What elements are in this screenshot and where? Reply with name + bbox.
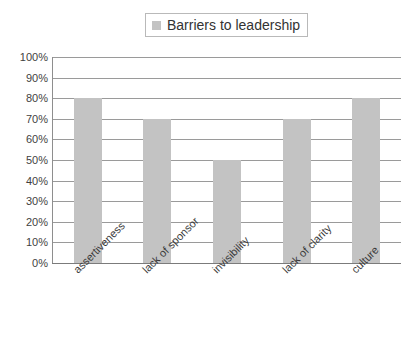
y-tick-label: 40% (26, 175, 48, 186)
y-tick-label: 20% (26, 216, 48, 227)
y-tick-label: 80% (26, 93, 48, 104)
y-tick-label: 10% (26, 237, 48, 248)
gridline-90 (53, 78, 401, 79)
y-axis-line (52, 57, 53, 263)
y-tick-label: 60% (26, 134, 48, 145)
y-tick-label: 0% (32, 258, 48, 269)
chart-legend: Barriers to leadership (145, 13, 308, 37)
y-tick-label: 70% (26, 113, 48, 124)
gridline-100 (53, 57, 401, 58)
y-axis-tick-labels: 100%90%80%70%60%50%40%30%20%10%0% (0, 57, 48, 263)
bar-chart-figure: Barriers to leadership 100%90%80%70%60%5… (0, 0, 415, 346)
gridline-70 (53, 119, 401, 120)
legend-series-label: Barriers to leadership (167, 18, 300, 32)
x-axis-tick-labels: assertivenesslack of sponsorinvisibility… (53, 263, 401, 346)
y-tick-label: 90% (26, 72, 48, 83)
y-tick-label: 100% (20, 52, 48, 63)
y-tick-label: 50% (26, 155, 48, 166)
legend-color-swatch (152, 21, 161, 30)
y-tick-label: 30% (26, 196, 48, 207)
bar-culture (352, 98, 380, 263)
gridline-80 (53, 98, 401, 99)
gridline-60 (53, 139, 401, 140)
